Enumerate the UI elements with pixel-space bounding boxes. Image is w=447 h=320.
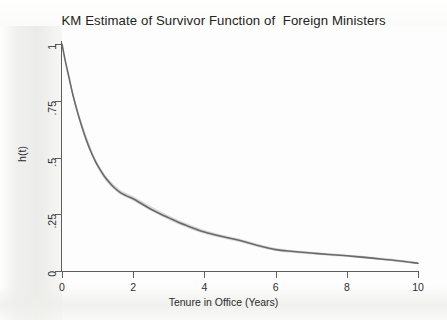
km-survivor-curve	[62, 44, 418, 263]
survivor-curve-layer	[0, 0, 447, 320]
chart-figure: KM Estimate of Survivor Function of Fore…	[0, 0, 447, 320]
confidence-interval-band	[62, 44, 418, 264]
